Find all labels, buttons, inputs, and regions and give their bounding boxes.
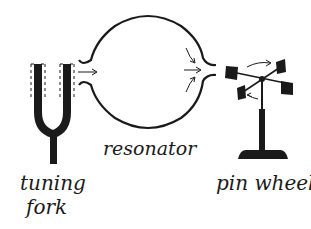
tuning-fork-label-line2: fork <box>26 197 67 217</box>
resonator-label: resonator <box>103 139 196 158</box>
resonator-icon <box>79 16 216 128</box>
pin-wheel-label: pin wheel <box>216 173 311 193</box>
pin-wheel-icon <box>225 59 293 159</box>
tuning-fork-label-line1: tuning <box>20 173 86 193</box>
airflow-arrows-icon <box>184 48 201 92</box>
tuning-fork-icon <box>31 64 74 164</box>
arrow-right-icon <box>78 69 97 75</box>
